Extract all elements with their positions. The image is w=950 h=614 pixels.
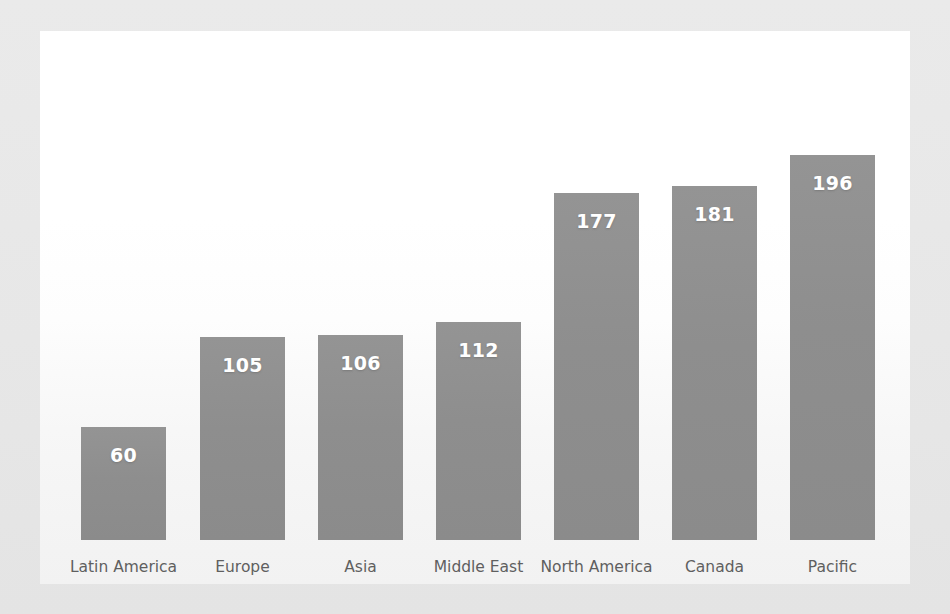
bar-canada[interactable]: 181 xyxy=(672,186,757,540)
category-label-pacific: Pacific xyxy=(756,558,909,576)
bar-europe[interactable]: 105 xyxy=(200,337,285,540)
chart-canvas: 60 Latin America 105 Europe 106 Asia 112… xyxy=(40,31,910,584)
bar-value-label: 112 xyxy=(436,339,521,361)
bar-value-label: 181 xyxy=(672,203,757,225)
bar-value-label: 177 xyxy=(554,210,639,232)
bar-value-label: 106 xyxy=(318,352,403,374)
bar-latin-america[interactable]: 60 xyxy=(81,427,166,540)
bar-north-america[interactable]: 177 xyxy=(554,193,639,540)
bar-pacific[interactable]: 196 xyxy=(790,155,875,540)
bar-value-label: 105 xyxy=(200,354,285,376)
bar-value-label: 60 xyxy=(81,444,166,466)
bar-value-label: 196 xyxy=(790,172,875,194)
bar-middle-east[interactable]: 112 xyxy=(436,322,521,540)
bar-asia[interactable]: 106 xyxy=(318,335,403,540)
bar-chart-plot-area: 60 Latin America 105 Europe 106 Asia 112… xyxy=(40,31,910,584)
